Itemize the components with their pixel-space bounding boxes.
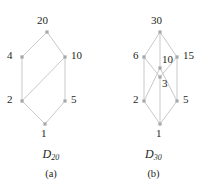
vertex-label-2: 2 xyxy=(7,94,13,105)
hasse-node-marker xyxy=(175,55,178,58)
hasse-edge xyxy=(22,32,47,57)
vertex-label-6: 6 xyxy=(133,50,139,61)
hasse-node-marker xyxy=(142,99,145,102)
vertex-label-1: 1 xyxy=(156,128,162,139)
hasse-node-marker xyxy=(142,55,145,58)
vertex-label-4: 4 xyxy=(7,50,13,61)
hasse-edge xyxy=(144,101,160,124)
hasse-edge xyxy=(45,101,65,124)
hasse-edge xyxy=(22,101,45,124)
hasse-node-marker xyxy=(20,55,23,58)
hasse-edge xyxy=(47,32,65,57)
panel-b: 30615103251D30(b) xyxy=(102,0,205,189)
hasse-node-marker xyxy=(175,99,178,102)
vertex-label-10: 10 xyxy=(162,54,173,65)
vertex-label-10: 10 xyxy=(71,50,82,61)
poset-name-base: D xyxy=(145,147,154,161)
hasse-node-marker xyxy=(63,99,66,102)
panel-a: 20410251D20(a) xyxy=(0,0,102,189)
vertex-label-30: 30 xyxy=(151,15,162,26)
vertex-label-15: 15 xyxy=(183,50,194,61)
hasse-node-marker xyxy=(45,30,48,33)
vertex-label-5: 5 xyxy=(71,94,77,105)
vertex-label-2: 2 xyxy=(133,94,139,105)
vertex-label-3: 3 xyxy=(162,78,168,89)
vertex-label-5: 5 xyxy=(183,94,189,105)
poset-name-b: D30 xyxy=(102,148,205,164)
poset-name-subscript: 30 xyxy=(154,153,162,162)
hasse-edge xyxy=(144,68,160,101)
figure-root: 20410251D20(a) 30615103251D30(b) xyxy=(0,0,205,189)
hasse-node-marker xyxy=(63,55,66,58)
hasse-edge xyxy=(144,32,160,57)
poset-name-a: D20 xyxy=(0,148,102,164)
hasse-node-marker xyxy=(20,99,23,102)
hasse-node-marker xyxy=(158,30,161,33)
hasse-edge xyxy=(22,57,65,101)
vertex-label-20: 20 xyxy=(37,15,48,26)
poset-name-subscript: 20 xyxy=(51,153,59,162)
hasse-node-marker xyxy=(158,66,161,69)
panel-label-a: (a) xyxy=(0,169,102,180)
hasse-edge xyxy=(160,101,177,124)
hasse-diagram-edges-a xyxy=(0,0,102,145)
hasse-node-marker xyxy=(43,122,46,125)
vertex-label-1: 1 xyxy=(41,128,47,139)
poset-name-base: D xyxy=(42,147,51,161)
panel-label-b: (b) xyxy=(102,169,205,180)
hasse-node-marker xyxy=(158,122,161,125)
